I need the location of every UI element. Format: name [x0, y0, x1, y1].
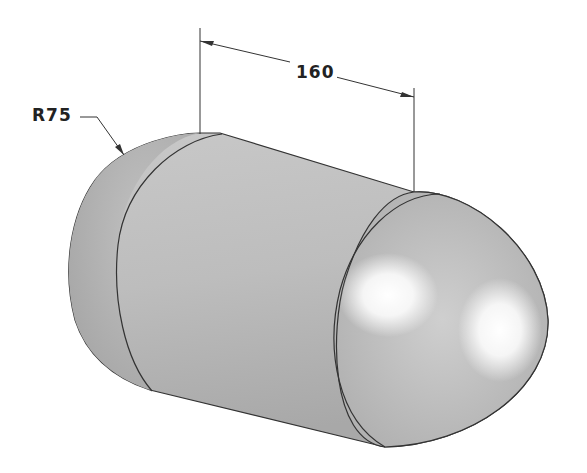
length-dimension-label: 160: [294, 62, 337, 82]
radius-leader: [80, 117, 124, 155]
radius-dimension-label: R75: [30, 105, 74, 125]
